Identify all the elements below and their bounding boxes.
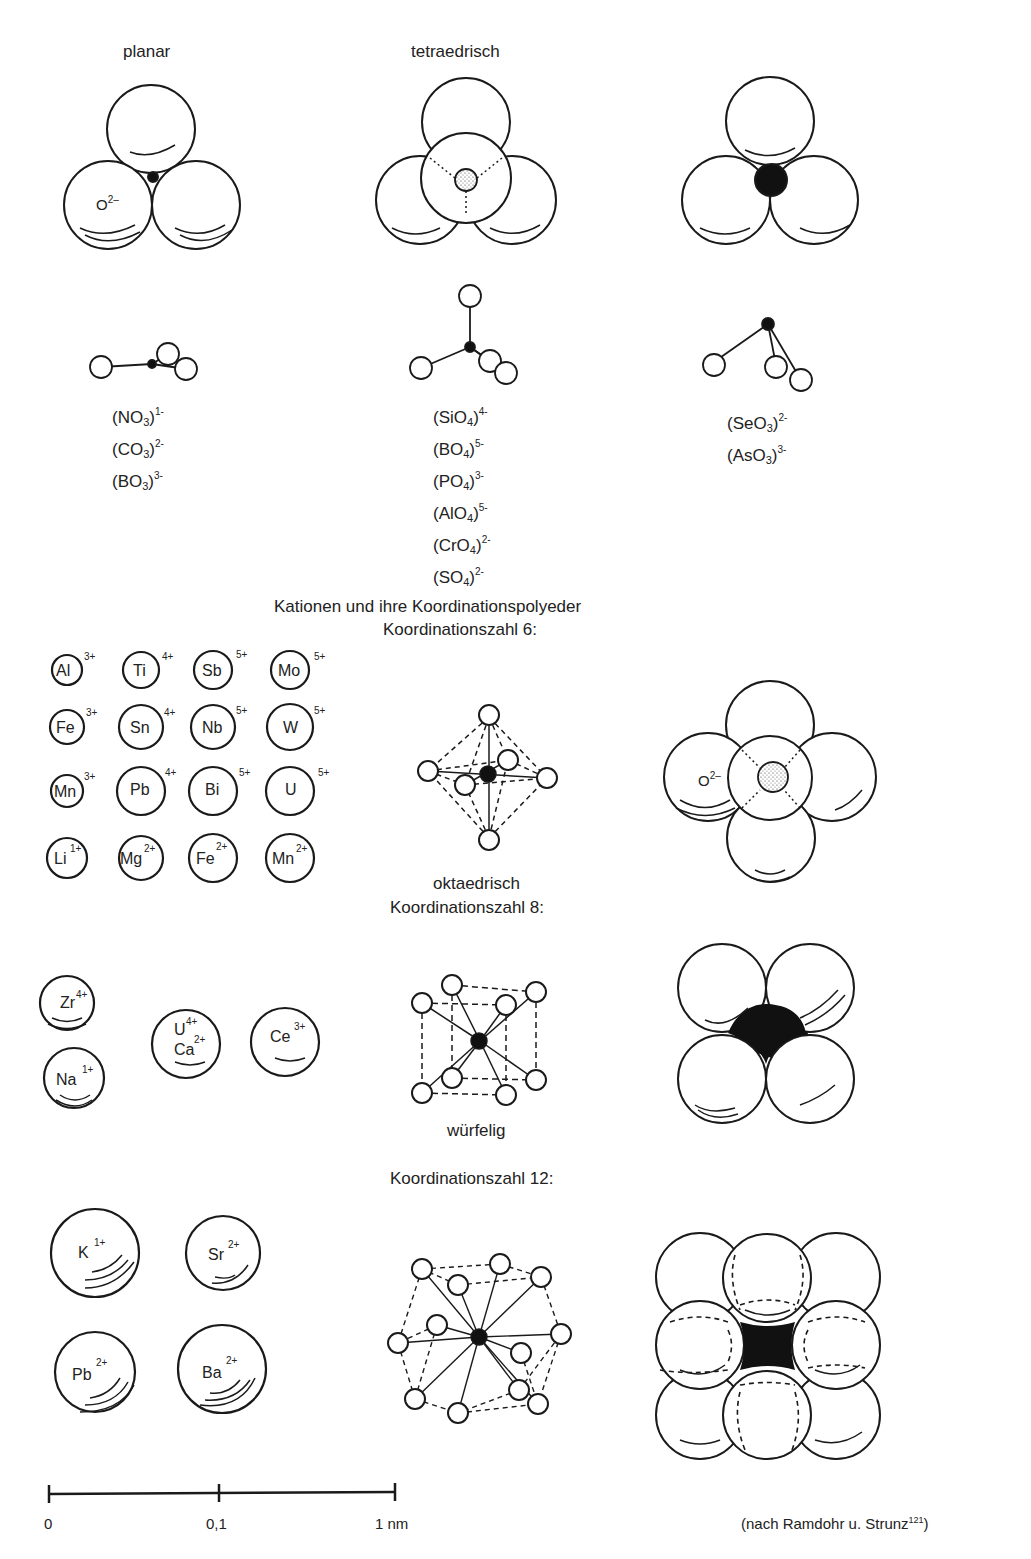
svg-text:W: W [283,719,299,736]
octahedral-ball-stick-model [418,705,557,850]
svg-text:4+: 4+ [186,1016,198,1027]
svg-text:Na: Na [56,1071,77,1088]
svg-text:4+: 4+ [76,989,88,1000]
svg-text:5+: 5+ [314,705,326,716]
formula-item: (CO3)2- [112,433,164,465]
svg-text:3+: 3+ [294,1021,306,1032]
formula-item: (SO4)2- [433,561,491,593]
scale-bar [49,1483,395,1503]
svg-text:Sr: Sr [208,1246,225,1263]
svg-text:1+: 1+ [94,1237,106,1248]
svg-text:5+: 5+ [236,649,248,660]
svg-text:Nb: Nb [202,719,223,736]
svg-text:Pb: Pb [72,1366,92,1383]
svg-text:3+: 3+ [86,707,98,718]
scale-tick-0: 0 [44,1515,52,1532]
pyramidal-formula-list: (SeO3)2- (AsO3)3- [727,407,787,471]
svg-text:5+: 5+ [314,651,326,662]
svg-text:4+: 4+ [162,651,174,662]
cn12-title: Koordinationszahl 12: [390,1169,554,1189]
svg-text:2+: 2+ [216,841,228,852]
scale-tick-01: 0,1 [206,1515,227,1532]
svg-text:Li: Li [54,850,66,867]
cn6-shape-label: oktaedrisch [433,874,520,894]
svg-text:5+: 5+ [236,705,248,716]
svg-text:Pb: Pb [130,781,150,798]
svg-text:2+: 2+ [194,1034,206,1045]
svg-text:K: K [78,1244,89,1261]
diagram-canvas: O2– [0,0,1031,1559]
svg-text:Fe: Fe [56,719,75,736]
svg-text:2+: 2+ [228,1239,240,1250]
formula-item: (SeO3)2- [727,407,787,439]
svg-text:5+: 5+ [318,767,330,778]
formula-item: (SiO4)4- [433,401,491,433]
svg-text:4+: 4+ [165,767,177,778]
cubic-spacefill-model [678,944,854,1123]
tetrahedral-spacefill-model [376,78,556,244]
cuboctahedral-ball-stick-model [388,1254,571,1423]
octahedral-spacefill-model [664,681,876,882]
svg-text:Mn: Mn [272,850,294,867]
svg-text:2+: 2+ [144,843,156,854]
formula-item: (NO3)1- [112,401,164,433]
svg-text:5+: 5+ [239,767,251,778]
svg-text:1+: 1+ [70,843,82,854]
cn6-title: Koordinationszahl 6: [383,620,537,640]
svg-text:3+: 3+ [84,771,96,782]
formula-item: (CrO4)2- [433,529,491,561]
cn12-cation-labels: K1+ Sr2+ Pb2+ Ba2+ [72,1237,240,1383]
svg-text:Ba: Ba [202,1364,222,1381]
svg-text:Sn: Sn [130,719,150,736]
planar-spacefill-model [64,85,240,249]
planar-formula-list: (NO3)1- (CO3)2- (BO3)3- [112,401,164,497]
svg-text:1+: 1+ [82,1064,94,1075]
svg-text:U: U [285,781,297,798]
svg-text:3+: 3+ [84,651,96,662]
svg-text:4+: 4+ [164,707,176,718]
formula-item: (AlO4)5- [433,497,491,529]
citation: (nach Ramdohr u. Strunz121) [741,1515,929,1532]
tetrahedral-formula-list: (SiO4)4- (BO4)5- (PO4)3- (AlO4)5- (CrO4)… [433,401,491,593]
svg-text:Al: Al [56,662,70,679]
svg-text:Ti: Ti [133,662,146,679]
cn6-cation-grid [47,651,314,882]
svg-text:2+: 2+ [226,1355,238,1366]
svg-text:Zr: Zr [60,994,76,1011]
svg-text:U: U [174,1021,186,1038]
svg-text:Ce: Ce [270,1028,291,1045]
cn8-title: Koordinationszahl 8: [390,898,544,918]
tetrahedral-ball-stick-model [410,285,517,384]
section-title: Kationen und ihre Koordinationspolyeder [274,597,581,617]
svg-text:Mg: Mg [120,850,142,867]
cuboctahedral-spacefill-model [656,1233,880,1459]
svg-text:Bi: Bi [205,781,219,798]
formula-item: (BO4)5- [433,433,491,465]
svg-text:Sb: Sb [202,662,222,679]
cubic-ball-stick-model [412,975,546,1105]
svg-text:Mn: Mn [54,783,76,800]
formula-item: (AsO3)3- [727,439,787,471]
pyramidal-ball-stick-model [703,318,812,391]
planar-ball-stick-model [90,343,197,380]
cn8-shape-label: würfelig [447,1121,506,1141]
scale-tick-1nm: 1 nm [375,1515,408,1532]
formula-item: (BO3)3- [112,465,164,497]
formula-item: (PO4)3- [433,465,491,497]
svg-text:Ca: Ca [174,1041,195,1058]
svg-text:Mo: Mo [278,662,300,679]
pyramidal-spacefill-model [682,77,858,244]
svg-text:2+: 2+ [296,843,308,854]
svg-text:Fe: Fe [196,850,215,867]
svg-text:2+: 2+ [96,1357,108,1368]
